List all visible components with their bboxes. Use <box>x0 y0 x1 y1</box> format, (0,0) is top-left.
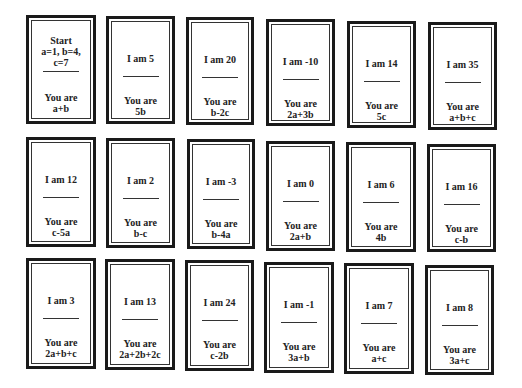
card-value: I am 20 <box>204 54 236 65</box>
card-face: I am 13 You are 2a+2b+2c <box>110 264 170 365</box>
card: I am 8 You are 3a+c <box>425 265 494 375</box>
card-clue: I am 5 <box>127 42 154 64</box>
card-label: You are <box>204 96 237 107</box>
card-label: You are <box>124 217 157 228</box>
card-clue: Start a=1, b=4, c=7 <box>41 35 80 68</box>
card-expression: b-c <box>134 228 147 239</box>
divider-line <box>202 320 238 321</box>
card-label: You are <box>45 337 78 348</box>
card-clue: I am -1 <box>284 288 315 310</box>
card-face: I am 35 You are a+b+c <box>433 27 492 125</box>
card-clue: I am 2 <box>127 164 154 186</box>
divider-line <box>203 199 239 200</box>
card-value: I am 14 <box>365 58 397 69</box>
card-face: Start a=1, b=4, c=7 You are a+b <box>31 20 91 119</box>
card-value: I am 8 <box>446 302 473 313</box>
card-label: You are <box>363 342 396 353</box>
card-value: I am 13 <box>124 296 156 307</box>
card-label: You are <box>203 339 236 350</box>
divider-line <box>123 198 159 199</box>
card-label: You are <box>124 338 157 349</box>
card-label: You are <box>283 341 316 352</box>
card-clue: I am 3 <box>47 284 74 306</box>
card-clue: I am 7 <box>365 289 392 311</box>
card-label: You are <box>284 220 317 231</box>
card-expression: b-2c <box>211 107 229 118</box>
card-start: Start a=1, b=4, c=7 You are a+b <box>26 15 96 124</box>
card-label: You are <box>365 100 398 111</box>
card-clue: I am 24 <box>203 286 235 308</box>
card-value: I am 7 <box>365 300 392 311</box>
card-expression: c-b <box>455 234 468 245</box>
card-face: I am -10 You are 2a+3b <box>271 24 330 121</box>
card-expression: b-4a <box>212 229 231 240</box>
card-value: I am -1 <box>284 299 315 310</box>
card-clue: I am 20 <box>204 43 236 65</box>
card-face: I am 5 You are 5b <box>111 21 170 119</box>
card-face: I am -3 You are b-4a <box>192 144 250 244</box>
card-value: I am -3 <box>206 176 237 187</box>
card: I am -3 You are b-4a <box>187 139 255 249</box>
card-value: I am 5 <box>127 53 154 64</box>
divider-line <box>445 82 481 83</box>
card-label: You are <box>365 221 398 232</box>
card: I am 20 You are b-2c <box>186 17 254 125</box>
card-value: I am 6 <box>367 179 394 190</box>
card: I am 3 You are 2a+b+c <box>26 258 96 369</box>
card-value: I am -10 <box>283 56 319 67</box>
card-face: I am 6 You are 4b <box>351 147 411 247</box>
divider-line <box>281 322 317 323</box>
card-value: I am 24 <box>203 297 235 308</box>
card-clue: I am 16 <box>445 170 477 192</box>
card-label: You are <box>45 92 78 103</box>
divider-line <box>283 79 319 80</box>
divider-line <box>283 201 319 202</box>
card: I am -10 You are 2a+3b <box>266 19 335 126</box>
card: I am 2 You are b-c <box>106 138 175 248</box>
card-value: I am 12 <box>45 174 77 185</box>
card-face: I am -1 You are 3a+b <box>269 267 329 368</box>
start-title: Start <box>41 35 80 46</box>
divider-line <box>43 197 79 198</box>
card-clue: I am 14 <box>365 47 397 69</box>
card-face: I am 16 You are c-b <box>432 149 491 247</box>
card-clue: I am 35 <box>446 48 478 70</box>
divider-line <box>123 76 159 77</box>
card-clue: I am -3 <box>206 165 237 187</box>
card-expression: 2a+3b <box>287 109 313 120</box>
card-expression: 2a+2b+2c <box>119 349 160 360</box>
divider-line <box>442 325 478 326</box>
card-face: I am 3 You are 2a+b+c <box>31 263 91 364</box>
card-value: I am 16 <box>445 181 477 192</box>
card-face: I am 14 You are 5c <box>352 26 411 123</box>
divider-line <box>43 71 79 72</box>
card-label: You are <box>443 344 476 355</box>
card-clue: I am 8 <box>446 291 473 313</box>
card: I am 13 You are 2a+2b+2c <box>105 259 175 370</box>
card-face: I am 20 You are b-2c <box>191 22 249 120</box>
card-face: I am 12 You are c-5a <box>31 142 91 242</box>
divider-line <box>444 204 480 205</box>
card-face: I am 24 You are c-2b <box>190 265 249 366</box>
card-clue: I am 0 <box>287 167 314 189</box>
card-expression: a+c <box>371 353 386 364</box>
card: I am 14 You are 5c <box>347 21 416 128</box>
card-expression: c-2b <box>210 350 228 361</box>
card: I am 35 You are a+b+c <box>428 22 497 130</box>
card: I am 0 You are 2a+b <box>266 141 335 251</box>
divider-line <box>363 202 399 203</box>
card: I am 12 You are c-5a <box>26 137 96 247</box>
card-expression: 3a+b <box>288 352 309 363</box>
card-label: You are <box>446 101 479 112</box>
divider-line <box>202 77 238 78</box>
card-value: I am 2 <box>127 175 154 186</box>
card-label: You are <box>124 95 157 106</box>
card-expression: 2a+b+c <box>45 348 76 359</box>
card-label: You are <box>284 98 317 109</box>
card-expression: a+b+c <box>449 112 475 123</box>
card-clue: I am 13 <box>124 285 156 307</box>
card-expression: 5b <box>135 106 146 117</box>
card-label: You are <box>205 218 238 229</box>
card-expression: 4b <box>376 232 387 243</box>
divider-line <box>364 81 400 82</box>
